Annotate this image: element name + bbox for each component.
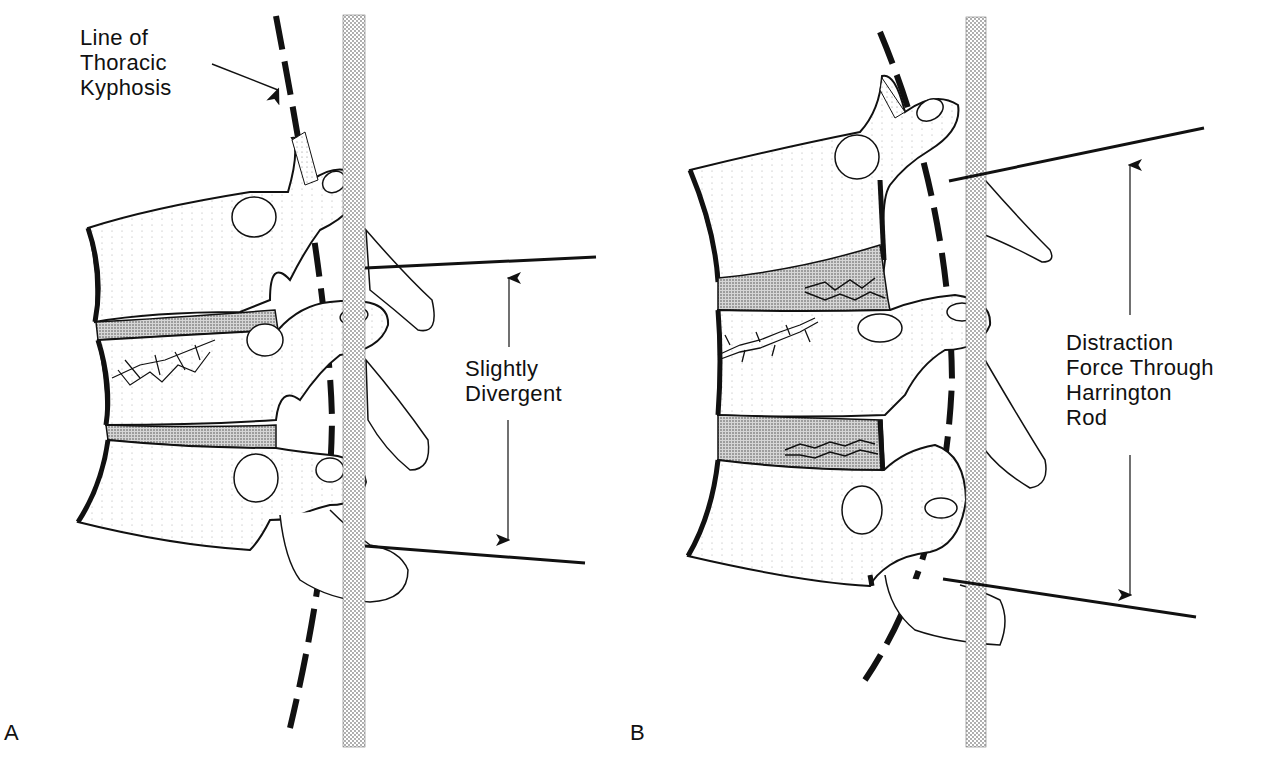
harrington-rod-a [343,15,365,747]
distraction-label-line-2: Force Through [1066,355,1214,380]
distraction-label: Distraction Force Through Harrington Rod [1066,330,1214,430]
kyphosis-label: Line of Thoracic Kyphosis [80,25,172,100]
measure-line-a-top [365,257,596,268]
distraction-label-line-1: Distraction [1066,330,1214,355]
pointer-arrow-kyphosis [212,64,278,90]
kyphosis-label-line-1: Line of [80,25,172,50]
distraction-label-line-3: Harrington [1066,380,1214,405]
vertebra-b-lower [688,445,1005,645]
distraction-label-line-4: Rod [1066,405,1214,430]
measure-line-b-top [949,128,1204,181]
pedicle-a1 [232,197,276,237]
panel-letter-b: B [630,720,645,746]
kyphosis-label-line-3: Kyphosis [80,75,172,100]
divergent-label-line-1: Slightly [465,356,562,381]
disc-b-lower [718,415,884,470]
divergent-label-line-2: Divergent [465,381,562,406]
harrington-rod-b [966,17,986,747]
divergent-label: Slightly Divergent [465,356,562,406]
spinous-processes-b [985,180,1052,488]
kyphosis-label-line-2: Thoracic [80,50,172,75]
panel-letter-a: A [4,720,19,746]
